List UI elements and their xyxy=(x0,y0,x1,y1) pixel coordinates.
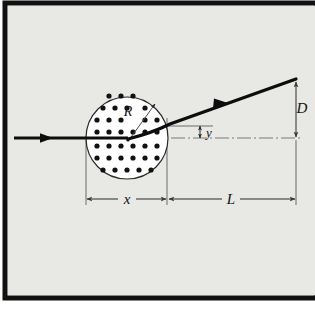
figure-container: R y D x L xyxy=(0,0,315,318)
label-L: L xyxy=(226,191,235,207)
label-y: y xyxy=(204,125,212,140)
label-x: x xyxy=(123,191,131,207)
label-D: D xyxy=(296,100,308,116)
scattering-diagram: R y D x L xyxy=(0,0,315,318)
label-R: R xyxy=(123,104,133,119)
